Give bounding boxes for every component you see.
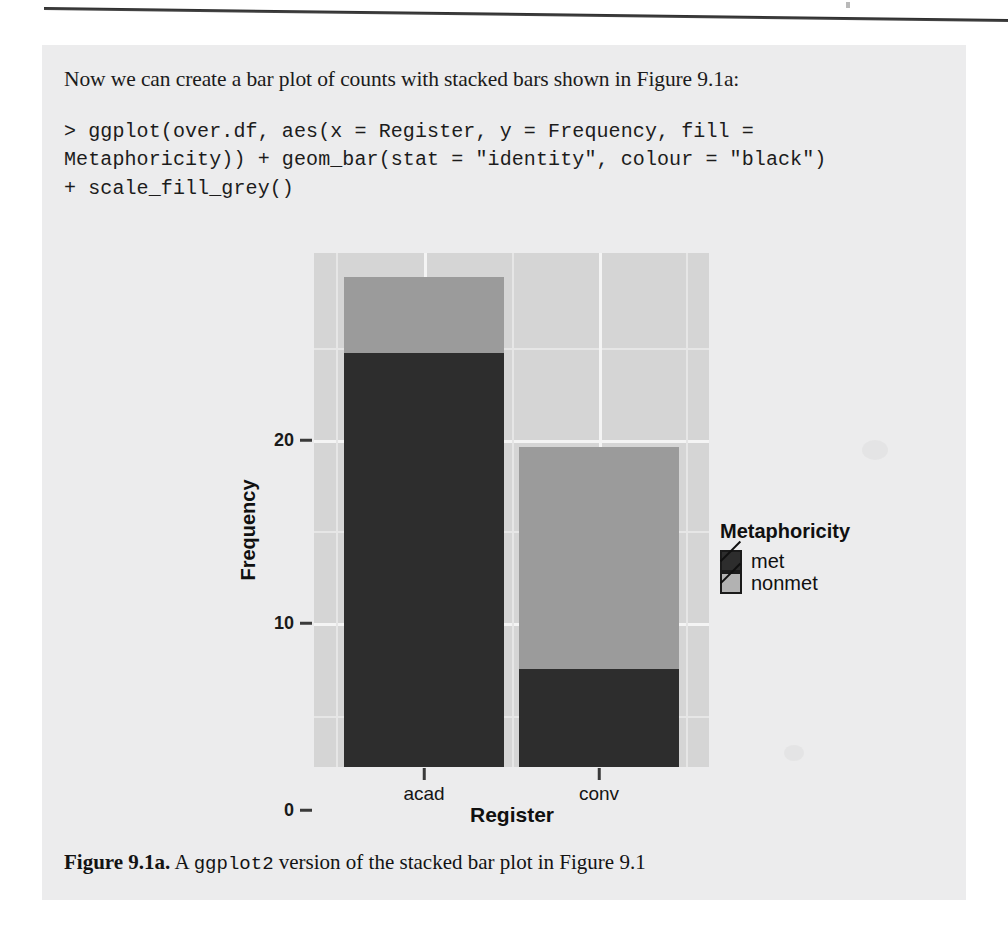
page-content-block: Now we can create a bar plot of counts w… [42, 45, 966, 900]
bar-conv-nonmet [519, 447, 679, 669]
legend-item-met[interactable]: met [720, 550, 850, 572]
caption-package-name: ggplot2 [194, 853, 274, 875]
x-axis-title: Register [470, 803, 554, 827]
legend-label-nonmet: nonmet [751, 572, 818, 595]
y-tick-label-0: 0 [254, 800, 294, 821]
figure-caption: Figure 9.1a. A ggplot2 version of the st… [64, 850, 646, 875]
legend-title: Metaphoricity [720, 520, 850, 543]
legend-label-met: met [751, 550, 784, 573]
r-code-block: > ggplot(over.df, aes(x = Register, y = … [64, 118, 944, 203]
legend-swatch-met-icon [720, 550, 742, 572]
bar-acad-met [344, 353, 504, 767]
y-axis-title: Frequency [237, 479, 260, 580]
x-tick-label-conv: conv [579, 783, 619, 805]
x-tick-mark-acad [423, 768, 426, 780]
y-tick-mark-10 [300, 622, 312, 625]
y-tick-mark-0 [300, 809, 312, 812]
chart-legend: Metaphoricity met nonmet [720, 520, 850, 594]
bar-acad-nonmet [344, 277, 504, 353]
legend-swatch-nonmet-icon [720, 572, 742, 594]
intro-paragraph: Now we can create a bar plot of counts w… [64, 66, 944, 92]
y-tick-label-10: 10 [254, 613, 294, 634]
x-tick-label-acad: acad [403, 783, 444, 805]
gridline-minor-vertical-right [686, 253, 688, 767]
gridline-minor-vertical-left [336, 253, 338, 767]
scan-speck [846, 2, 850, 8]
bar-conv-met [519, 669, 679, 767]
figure-9-1a: Frequency 20 10 0 [192, 240, 952, 820]
gridline-minor-vertical-mid [512, 253, 514, 767]
y-tick-mark-20 [300, 439, 312, 442]
plot-panel [314, 253, 709, 767]
caption-label: Figure 9.1a. [64, 850, 170, 874]
caption-lead: A [174, 850, 188, 874]
scanned-book-page: Now we can create a bar plot of counts w… [0, 0, 1008, 942]
legend-item-nonmet[interactable]: nonmet [720, 572, 850, 594]
page-top-rule [44, 7, 1008, 22]
x-tick-mark-conv [598, 768, 601, 780]
y-tick-label-20: 20 [254, 430, 294, 451]
caption-rest: version of the stacked bar plot in Figur… [279, 850, 646, 874]
